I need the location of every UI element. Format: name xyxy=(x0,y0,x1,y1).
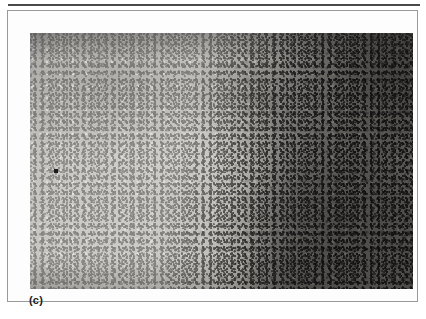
micrograph-top-shading xyxy=(30,33,413,59)
micrograph-image xyxy=(30,33,413,289)
micrograph-bottom-shading xyxy=(30,259,413,289)
micrograph-dense-clumps xyxy=(30,33,413,289)
figure-frame-box: (c) xyxy=(7,10,418,302)
top-horizontal-rule xyxy=(8,4,420,6)
panel-label: (c) xyxy=(29,295,43,306)
dark-speck-marker xyxy=(54,169,58,173)
figure-page: (c) xyxy=(0,0,426,319)
